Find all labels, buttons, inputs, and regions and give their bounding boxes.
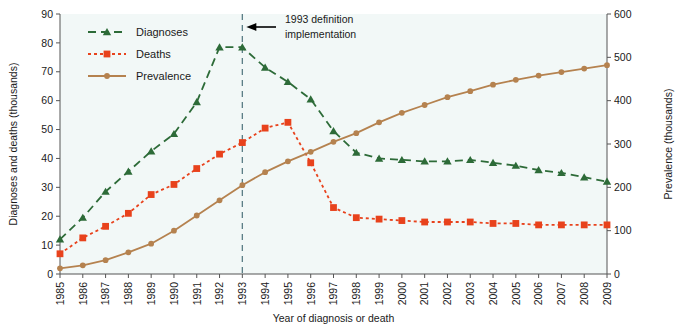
- data-point-prevalence: [467, 88, 473, 94]
- x-axis-tick-label: 2009: [601, 282, 613, 306]
- x-axis-tick-label: 1993: [236, 282, 248, 306]
- x-axis-tick-label: 1986: [77, 282, 89, 306]
- x-axis-tick-label: 2006: [532, 282, 544, 306]
- y-axis-right-tick-label: 100: [614, 224, 632, 236]
- data-point-prevalence: [376, 119, 382, 125]
- data-point-prevalence: [559, 69, 565, 75]
- x-axis-tick-label: 2007: [555, 282, 567, 306]
- data-point-prevalence: [422, 102, 428, 108]
- x-axis-tick-label: 1991: [191, 282, 203, 306]
- x-axis-tick-label: 1989: [145, 282, 157, 306]
- data-point-deaths: [376, 216, 383, 223]
- data-point-prevalence: [285, 158, 291, 164]
- data-point-deaths: [398, 217, 405, 224]
- data-point-prevalence: [331, 139, 337, 145]
- x-axis-tick-label: 1997: [327, 282, 339, 306]
- legend-label-diagnoses: Diagnoses: [136, 26, 188, 38]
- data-point-prevalence: [171, 228, 177, 234]
- y-axis-right-tick-label: 500: [614, 51, 632, 63]
- x-axis-tick-label: 1992: [213, 282, 225, 306]
- x-axis-tick-label: 2000: [396, 282, 408, 306]
- x-axis-tick-label: 1996: [305, 282, 317, 306]
- data-point-deaths: [285, 119, 292, 126]
- data-point-prevalence: [103, 257, 109, 263]
- x-axis-tick-label: 2005: [510, 282, 522, 306]
- data-point-prevalence: [581, 66, 587, 72]
- data-point-deaths: [535, 221, 542, 228]
- x-axis-tick-label: 1998: [350, 282, 362, 306]
- epidemiology-line-chart: 0102030405060708090 0100200300400500600 …: [0, 0, 689, 331]
- x-axis-title: Year of diagnosis or death: [273, 312, 395, 324]
- y-axis-left-tick-label: 0: [47, 268, 53, 280]
- data-point-deaths: [171, 181, 178, 188]
- x-axis-tick-label: 2004: [487, 282, 499, 306]
- y-axis-left-tick-label: 80: [41, 37, 53, 49]
- x-axis-tick-label: 1988: [122, 282, 134, 306]
- data-point-deaths: [307, 159, 314, 166]
- data-point-prevalence: [399, 110, 405, 116]
- annotation-text-line1: 1993 definition: [285, 13, 353, 25]
- data-point-prevalence: [490, 82, 496, 88]
- y-axis-left-tick-label: 10: [41, 239, 53, 251]
- data-point-prevalence: [80, 262, 86, 268]
- data-point-deaths: [262, 125, 269, 132]
- y-axis-left-title: Diagnoses and deaths (thousands): [7, 63, 19, 226]
- legend-label-prevalence: Prevalence: [136, 70, 191, 82]
- data-point-deaths: [79, 234, 86, 241]
- data-point-deaths: [57, 250, 64, 257]
- y-axis-right-tick-label: 600: [614, 8, 632, 20]
- data-point-deaths: [444, 219, 451, 226]
- data-point-deaths: [353, 214, 360, 221]
- data-point-deaths: [604, 221, 611, 228]
- chart-container: 0102030405060708090 0100200300400500600 …: [0, 0, 689, 331]
- data-point-prevalence: [148, 241, 154, 247]
- data-point-deaths: [421, 219, 428, 226]
- legend-label-deaths: Deaths: [136, 48, 171, 60]
- data-point-prevalence: [194, 213, 200, 219]
- x-axis-tick-label: 1995: [282, 282, 294, 306]
- x-axis-tick-label: 2002: [441, 282, 453, 306]
- y-axis-left-tick-label: 40: [41, 152, 53, 164]
- data-point-prevalence: [217, 197, 223, 203]
- data-point-deaths: [467, 219, 474, 226]
- x-axis-tick-label: 1999: [373, 282, 385, 306]
- x-axis-tick-label: 1990: [168, 282, 180, 306]
- data-point-prevalence: [353, 130, 359, 136]
- data-point-deaths: [558, 221, 565, 228]
- y-axis-right-tick-label: 0: [614, 268, 620, 280]
- data-point-prevalence: [536, 73, 542, 79]
- data-point-deaths: [193, 165, 200, 172]
- data-point-prevalence: [513, 77, 519, 83]
- x-axis-tick-label: 2001: [418, 282, 430, 306]
- data-point-deaths: [512, 220, 519, 227]
- x-axis-tick-label: 1987: [99, 282, 111, 306]
- y-axis-left-tick-label: 20: [41, 210, 53, 222]
- x-axis-tick-label: 2003: [464, 282, 476, 306]
- data-point-deaths: [330, 204, 337, 211]
- x-axis-tick-label: 2008: [578, 282, 590, 306]
- data-point-prevalence: [239, 182, 245, 188]
- x-axis-tick-label: 1994: [259, 282, 271, 306]
- data-point-prevalence: [262, 169, 268, 175]
- y-axis-left-tick-label: 90: [41, 8, 53, 20]
- y-axis-right-tick-label: 400: [614, 94, 632, 106]
- data-point-deaths: [581, 221, 588, 228]
- y-axis-left-tick-label: 50: [41, 123, 53, 135]
- data-point-deaths: [148, 191, 155, 198]
- legend-marker-deaths: [104, 51, 111, 58]
- y-axis-left-tick-label: 30: [41, 181, 53, 193]
- y-axis-right-tick-label: 300: [614, 138, 632, 150]
- y-axis-right-tick-label: 200: [614, 181, 632, 193]
- data-point-prevalence: [604, 62, 610, 68]
- data-point-prevalence: [308, 149, 314, 155]
- data-point-deaths: [216, 151, 223, 158]
- data-point-deaths: [102, 223, 109, 230]
- data-point-deaths: [490, 220, 497, 227]
- data-point-deaths: [125, 210, 132, 217]
- legend-marker-prevalence: [104, 73, 110, 79]
- y-axis-left-tick-label: 60: [41, 94, 53, 106]
- data-point-prevalence: [57, 265, 63, 271]
- data-point-deaths: [239, 139, 246, 146]
- y-axis-left-tick-label: 70: [41, 65, 53, 77]
- data-point-prevalence: [445, 94, 451, 100]
